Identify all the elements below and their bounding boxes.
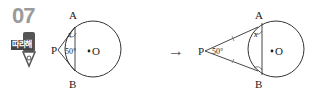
label-o: O	[275, 45, 283, 57]
label-b: B	[255, 78, 262, 90]
arrow-right-icon: →	[168, 42, 184, 59]
label-p: P	[198, 45, 204, 57]
label-a: A	[255, 9, 263, 21]
label-a: A	[69, 9, 77, 21]
label-b: B	[69, 78, 76, 90]
label-o: O	[92, 45, 100, 57]
angle-p-label: 50°	[65, 47, 76, 56]
label-p: P	[51, 44, 57, 56]
angle-p-label: 50°	[212, 47, 223, 56]
figure-right: A B P O 50° x	[198, 9, 304, 90]
figure-left: A B P O 50° x	[51, 9, 121, 90]
angle-x-label: x	[253, 30, 258, 39]
angle-x-label: x	[67, 30, 72, 39]
